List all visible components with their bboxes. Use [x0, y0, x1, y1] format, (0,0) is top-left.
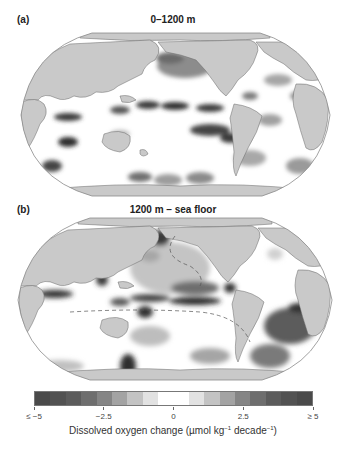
- colorbar-segment: [112, 392, 127, 405]
- panel-b-title: 1200 m – sea floor: [0, 204, 346, 215]
- colorbar-tick-label: ≥ 5: [307, 412, 318, 421]
- colorbar-tick: [243, 407, 244, 410]
- colorbar-tick-label: 0: [171, 412, 175, 421]
- colorbar-segment: [297, 392, 312, 405]
- colorbar-segment: [204, 392, 219, 405]
- colorbar-segment: [266, 392, 281, 405]
- colorbar-segment: [174, 392, 189, 405]
- colorbar-segment: [81, 392, 96, 405]
- colorbar-segment: [97, 392, 112, 405]
- colorbar-title-exp2: −1: [267, 425, 274, 431]
- colorbar-tick-label: −2.5: [96, 412, 112, 421]
- colorbar-tick: [103, 407, 104, 410]
- colorbar-segment: [158, 392, 173, 405]
- colorbar-segment: [143, 392, 158, 405]
- colorbar: [34, 391, 313, 406]
- colorbar-title-end: ): [274, 425, 277, 436]
- colorbar-tick: [313, 407, 314, 410]
- colorbar-title: Dissolved oxygen change (µmol kg−1 decad…: [0, 425, 346, 436]
- map-panel-b: [0, 216, 346, 384]
- panel-a-title: 0–1200 m: [0, 14, 346, 25]
- colorbar-tick-label: 2.5: [238, 412, 249, 421]
- colorbar-title-mid: decade: [231, 425, 267, 436]
- colorbar-segment: [66, 392, 81, 405]
- colorbar-segment: [35, 392, 50, 405]
- colorbar-title-main: Dissolved oxygen change (µmol kg: [69, 425, 224, 436]
- colorbar-tick-label: ≤ −5: [26, 412, 42, 421]
- colorbar-segment: [189, 392, 204, 405]
- colorbar-segment: [235, 392, 250, 405]
- map-panel-a: [0, 30, 346, 200]
- colorbar-tick: [173, 407, 174, 410]
- colorbar-segment: [50, 392, 65, 405]
- colorbar-segment: [127, 392, 142, 405]
- colorbar-segment: [250, 392, 265, 405]
- colorbar-segment: [281, 392, 296, 405]
- colorbar-segment: [220, 392, 235, 405]
- colorbar-tick: [34, 407, 35, 410]
